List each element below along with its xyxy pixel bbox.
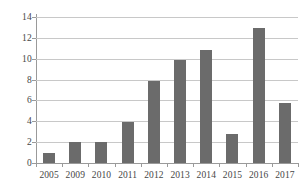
bar-slot xyxy=(36,17,62,163)
bar-chart: 02468101214 2005200920102011201220132014… xyxy=(0,0,306,195)
bar[interactable] xyxy=(43,153,55,163)
x-tick-label: 2014 xyxy=(197,170,216,181)
y-tick-label: 4 xyxy=(0,116,32,126)
x-tick-label: 2016 xyxy=(249,170,268,181)
y-tick-label: 6 xyxy=(0,95,32,105)
x-tick-mark xyxy=(141,163,142,167)
bar[interactable] xyxy=(279,103,291,163)
bar[interactable] xyxy=(69,142,81,163)
y-tick-label: 8 xyxy=(0,75,32,85)
y-tick-label: 12 xyxy=(0,33,32,43)
y-tick-label: 10 xyxy=(0,54,32,64)
bar-slot xyxy=(246,17,272,163)
x-tick-label: 2017 xyxy=(275,170,294,181)
bar-slot xyxy=(167,17,193,163)
bar[interactable] xyxy=(174,60,186,163)
x-axis-ticks xyxy=(36,163,298,168)
x-tick-mark xyxy=(272,163,273,167)
x-tick-label: 2011 xyxy=(118,170,137,181)
x-tick-label: 2005 xyxy=(39,170,58,181)
bar-slot xyxy=(141,17,167,163)
x-tick-mark xyxy=(167,163,168,167)
bar[interactable] xyxy=(226,134,238,163)
y-tick-label: 0 xyxy=(0,158,32,168)
x-tick-mark xyxy=(193,163,194,167)
y-tick-label: 2 xyxy=(0,137,32,147)
bar[interactable] xyxy=(148,81,160,163)
x-tick-mark xyxy=(298,163,299,167)
x-tick-mark xyxy=(62,163,63,167)
bar-slot xyxy=(272,17,298,163)
x-tick-label: 2010 xyxy=(92,170,111,181)
bar-slot xyxy=(193,17,219,163)
x-tick-mark xyxy=(219,163,220,167)
bar-slot xyxy=(219,17,245,163)
bar[interactable] xyxy=(95,142,107,163)
bar[interactable] xyxy=(200,50,212,163)
bar-slot xyxy=(115,17,141,163)
bars-layer xyxy=(36,17,298,163)
y-axis-labels: 02468101214 xyxy=(0,0,32,195)
x-tick-label: 2012 xyxy=(144,170,163,181)
bar[interactable] xyxy=(253,28,265,163)
bar-slot xyxy=(88,17,114,163)
x-tick-mark xyxy=(88,163,89,167)
x-tick-label: 2015 xyxy=(223,170,242,181)
bar-slot xyxy=(62,17,88,163)
x-tick-mark xyxy=(115,163,116,167)
x-tick-mark xyxy=(36,163,37,167)
y-tick-label: 14 xyxy=(0,12,32,22)
x-tick-label: 2009 xyxy=(66,170,85,181)
x-tick-label: 2013 xyxy=(170,170,189,181)
bar[interactable] xyxy=(122,122,134,163)
x-tick-mark xyxy=(246,163,247,167)
x-axis-labels: 2005200920102011201220132014201520162017 xyxy=(36,170,298,190)
